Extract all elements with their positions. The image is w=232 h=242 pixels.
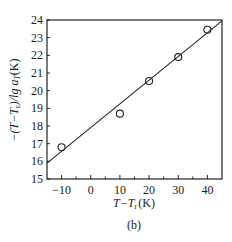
x-tick-label: 0	[88, 183, 94, 197]
x-tick-label: 20	[143, 183, 155, 197]
y-tick-label: 15	[31, 172, 43, 186]
y-axis-label: −(T−Tr)/lg aT(K)	[7, 58, 22, 141]
chart: 15161718192021222324 −10010203040 T−Tr(K…	[0, 0, 232, 242]
x-axis-ticks: −10010203040	[52, 175, 213, 197]
data-points	[58, 26, 211, 150]
y-tick-label: 16	[31, 154, 43, 168]
figure-caption: (b)	[127, 218, 141, 232]
y-tick-label: 22	[31, 48, 43, 62]
y-tick-label: 18	[31, 119, 43, 133]
y-tick-label: 17	[31, 137, 43, 151]
y-tick-label: 24	[31, 13, 43, 27]
x-tick-label: −10	[52, 183, 71, 197]
data-point	[146, 77, 153, 84]
data-point	[58, 144, 65, 151]
y-tick-label: 21	[31, 66, 43, 80]
y-tick-label: 19	[31, 101, 43, 115]
y-tick-label: 23	[31, 31, 43, 45]
x-axis-label: T−Tr(K)	[113, 196, 155, 211]
x-tick-label: 40	[201, 183, 213, 197]
data-point	[116, 110, 123, 117]
y-tick-label: 20	[31, 84, 43, 98]
fit-line	[47, 21, 222, 163]
x-tick-label: 10	[114, 183, 126, 197]
x-tick-label: 30	[172, 183, 184, 197]
plot-frame	[47, 20, 222, 179]
